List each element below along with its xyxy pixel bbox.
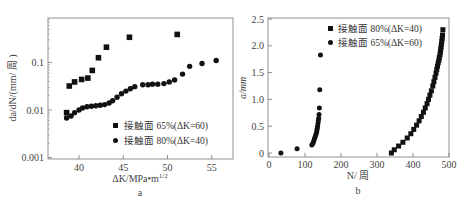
y-tick-label: 0.1 — [32, 57, 45, 68]
x-tick-label: 40 — [74, 162, 84, 173]
data-point-circle — [114, 94, 119, 99]
data-point-circle — [110, 98, 115, 103]
y-tick-label: 2.0 — [252, 40, 265, 51]
data-point-circle — [318, 52, 323, 57]
chart-b-y-axis-label: a/mm — [237, 77, 248, 99]
data-point-square — [423, 105, 428, 110]
x-tick-label: 500 — [442, 159, 457, 170]
legend-circle-icon — [328, 40, 333, 45]
chart-b-legend: 接触面 80%(ΔK=40)接触面 65%(ΔK=60) — [328, 23, 422, 49]
data-point-circle — [187, 64, 192, 69]
data-point-circle — [317, 112, 322, 117]
data-point-square — [432, 75, 437, 80]
data-point-square — [440, 27, 445, 32]
data-point-square — [426, 97, 431, 102]
chart-a-x-axis-label: ΔK/MPa•m1/2 — [112, 172, 168, 184]
y-tick-label: 0 — [259, 148, 264, 159]
data-point-square — [66, 83, 72, 89]
data-point-circle — [140, 82, 145, 87]
data-point-square — [421, 110, 426, 115]
data-point-square — [79, 77, 85, 83]
chart-a-y-ticks: 0.0010.010.1 — [22, 20, 53, 163]
chart-a-panel-label: a — [138, 187, 143, 198]
data-point-square — [427, 93, 432, 98]
data-point-circle — [150, 81, 155, 86]
data-point-circle — [155, 81, 160, 86]
legend-square-icon — [328, 26, 333, 31]
data-point-square — [408, 131, 413, 136]
data-point-circle — [213, 58, 218, 63]
y-tick-label: 0.001 — [22, 152, 45, 163]
x-tick-label: 200 — [334, 159, 349, 170]
chart-b-y-ticks: 00.51.01.52.02.5 — [252, 14, 273, 159]
data-point-circle — [172, 77, 177, 82]
data-point-circle — [317, 87, 322, 92]
data-point-circle — [167, 79, 172, 84]
chart-b-x-axis-label: N/ 周 — [347, 170, 370, 181]
data-point-square — [425, 101, 430, 106]
data-point-square — [419, 114, 424, 119]
data-point-circle — [180, 71, 185, 76]
chart-b-panel-label: b — [356, 185, 361, 196]
data-point-square — [174, 32, 180, 38]
chart-a-legend: 接触面 65%(ΔK=60)接触面 80%(ΔK=40) — [113, 120, 208, 147]
legend-label: 接触面 80%(ΔK=40) — [124, 135, 208, 147]
data-point-circle — [278, 151, 283, 156]
data-point-square — [89, 68, 95, 74]
data-point-circle — [317, 105, 322, 110]
data-point-square — [417, 118, 422, 123]
data-point-circle — [161, 81, 166, 86]
y-tick-label: 1.0 — [252, 94, 265, 105]
data-point-square — [431, 79, 436, 84]
data-point-square — [429, 88, 434, 93]
legend-label: 接触面 65%(ΔK=60) — [124, 120, 208, 132]
data-point-square — [64, 110, 70, 116]
x-tick-label: 55 — [207, 162, 217, 173]
data-point-square — [430, 84, 435, 89]
data-point-square — [400, 140, 405, 145]
data-point-square — [392, 147, 397, 152]
x-tick-label: 300 — [370, 159, 385, 170]
data-point-square — [85, 75, 91, 81]
chart-a-data-points — [64, 32, 219, 121]
legend-label: 接触面 80%(ΔK=40) — [338, 23, 422, 35]
x-tick-label: 100 — [298, 159, 313, 170]
y-tick-label: 1.5 — [252, 67, 265, 78]
data-point-square — [127, 34, 133, 40]
data-point-square — [104, 44, 110, 50]
chart-a-y-axis-label: da/dN/(mm/ 周 ) — [7, 54, 19, 121]
data-point-square — [440, 33, 445, 38]
chart-a: 0.0010.010.1 40455055 接触面 65%(ΔK=60)接触面 … — [7, 18, 233, 198]
data-point-circle — [295, 146, 300, 151]
data-point-circle — [132, 84, 137, 89]
y-tick-label: 2.5 — [252, 14, 265, 25]
y-tick-label: 0.01 — [27, 105, 45, 116]
x-tick-label: 0 — [267, 159, 272, 170]
data-point-square — [72, 79, 78, 85]
data-point-square — [396, 144, 401, 149]
data-point-square — [411, 127, 416, 132]
x-tick-label: 45 — [118, 162, 128, 173]
chart-b: 00.51.01.52.02.5 0100200300400500 接触面 80… — [237, 14, 457, 197]
data-point-square — [96, 55, 102, 61]
data-point-circle — [199, 61, 204, 66]
y-tick-label: 0.5 — [252, 121, 265, 132]
figure-canvas: 0.0010.010.1 40455055 接触面 65%(ΔK=60)接触面 … — [0, 0, 468, 210]
data-point-square — [414, 123, 419, 128]
chart-b-x-ticks: 0100200300400500 — [267, 153, 457, 170]
legend-square-icon — [113, 123, 118, 128]
legend-circle-icon — [113, 138, 118, 143]
x-tick-label: 400 — [406, 159, 421, 170]
legend-label: 接触面 65%(ΔK=60) — [338, 37, 422, 49]
chart-a-x-ticks: 40455055 — [74, 155, 217, 173]
data-point-square — [405, 135, 410, 140]
